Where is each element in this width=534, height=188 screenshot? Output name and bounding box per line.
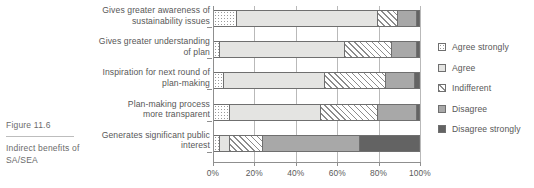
axis-tick-label: 80% <box>359 168 399 178</box>
category-label-line: Gives greater understanding <box>84 36 210 47</box>
category-tick <box>207 121 212 122</box>
category-label-line: Generates significant public <box>84 130 210 141</box>
legend-item: Indifferent <box>438 83 534 93</box>
axis-tick-label: 20% <box>234 168 274 178</box>
axis-tick <box>337 162 338 166</box>
plot-area <box>213 6 420 162</box>
axis-tick-label: 0% <box>193 168 233 178</box>
legend-item: Agree strongly <box>438 42 534 52</box>
category-label: Generates significant publicinterest <box>84 130 210 151</box>
bar-segment-agree <box>230 105 320 120</box>
category-tick <box>207 152 212 153</box>
bar-segment-indifferent <box>230 136 263 151</box>
legend-label: Agree strongly <box>452 42 509 52</box>
bar-segment-agree-strongly <box>214 73 224 88</box>
bar-segment-disagree-strongly <box>417 42 419 57</box>
legend-item: Agree <box>438 63 534 73</box>
bar-segment-indifferent <box>378 11 399 26</box>
axis-tick-label: 60% <box>317 168 357 178</box>
bar-segment-disagree-strongly <box>417 105 419 120</box>
bar-row <box>213 135 420 152</box>
axis-tick <box>379 162 380 166</box>
axis-tick-label: 40% <box>276 168 316 178</box>
category-tick <box>207 27 212 28</box>
category-label-line: plan-making <box>84 78 210 89</box>
category-tick <box>207 89 212 90</box>
bar-row <box>213 104 420 121</box>
bar-segment-indifferent <box>321 105 378 120</box>
category-label-line: interest <box>84 140 210 151</box>
legend-swatch-disagree-strongly <box>438 125 446 133</box>
axis-tick <box>213 162 214 166</box>
legend-label: Agree <box>452 63 475 73</box>
legend-label: Indifferent <box>452 83 491 93</box>
legend-item: Disagree strongly <box>438 124 534 134</box>
category-label-line: more transparent <box>84 109 210 120</box>
category-tick <box>207 58 212 59</box>
gridline <box>420 6 421 162</box>
bar-segment-disagree-strongly <box>417 11 419 26</box>
category-label-line: Plan-making process <box>84 99 210 110</box>
legend-item: Disagree <box>438 104 534 114</box>
bar-segment-disagree <box>378 105 417 120</box>
legend-swatch-indifferent <box>438 84 446 92</box>
bar-segment-disagree <box>386 73 415 88</box>
category-label: Inspiration for next round ofplan-making <box>84 67 210 88</box>
bar-segment-disagree <box>392 42 417 57</box>
category-label: Gives greater understandingof plan <box>84 36 210 57</box>
bar-segment-agree-strongly <box>214 105 230 120</box>
bar-row <box>213 41 420 58</box>
bar-segment-indifferent <box>345 42 392 57</box>
bar-segment-disagree <box>398 11 416 26</box>
chart-legend: Agree stronglyAgreeIndifferentDisagreeDi… <box>438 42 534 145</box>
bar-segment-disagree-strongly <box>360 136 419 151</box>
category-label: Gives greater awareness ofsustainability… <box>84 5 210 26</box>
bar-segment-agree-strongly <box>214 11 237 26</box>
legend-swatch-agree <box>438 64 446 72</box>
category-axis-labels: Gives greater awareness ofsustainability… <box>84 6 210 162</box>
bar-row <box>213 72 420 89</box>
axis-tick <box>420 162 421 166</box>
legend-swatch-disagree <box>438 105 446 113</box>
legend-swatch-agree-strongly <box>438 43 446 51</box>
figure-container: Figure 11.6 Indirect benefits of SA/SEA … <box>0 0 534 188</box>
bar-segment-indifferent <box>325 73 387 88</box>
bar-segment-agree <box>220 136 230 151</box>
axis-tick <box>296 162 297 166</box>
bar-segment-disagree-strongly <box>415 73 419 88</box>
axis-tick-label: 100% <box>400 168 440 178</box>
category-label-line: sustainability issues <box>84 16 210 27</box>
bar-segment-disagree <box>263 136 359 151</box>
category-label-line: Gives greater awareness of <box>84 5 210 16</box>
axis-tick <box>254 162 255 166</box>
bar-segment-agree <box>220 42 345 57</box>
category-axis-line <box>213 162 421 163</box>
legend-label: Disagree strongly <box>452 124 521 134</box>
legend-label: Disagree <box>452 104 487 114</box>
category-label: Plan-making processmore transparent <box>84 99 210 120</box>
bar-segment-agree <box>237 11 378 26</box>
bar-row <box>213 10 420 27</box>
bar-segment-agree <box>224 73 324 88</box>
category-label-line: Inspiration for next round of <box>84 67 210 78</box>
value-axis-line <box>213 6 214 163</box>
category-label-line: of plan <box>84 47 210 58</box>
